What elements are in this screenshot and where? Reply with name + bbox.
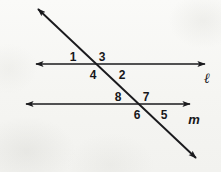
lines-group — [26, 9, 205, 158]
angle-label-6: 6 — [134, 109, 141, 121]
angle-label-1: 1 — [70, 51, 77, 63]
angle-label-3: 3 — [99, 51, 106, 63]
angle-label-8: 8 — [115, 91, 122, 103]
line-label-l: ℓ — [204, 72, 210, 86]
angle-label-5: 5 — [161, 109, 168, 121]
transversal-line — [38, 9, 196, 158]
geometry-canvas — [0, 0, 221, 172]
geometry-figure: 1 3 4 2 8 7 6 5 ℓ m — [0, 0, 221, 172]
angle-label-2: 2 — [119, 69, 126, 81]
angle-label-7: 7 — [143, 91, 150, 103]
line-label-m: m — [188, 113, 200, 126]
angle-label-4: 4 — [90, 69, 97, 81]
